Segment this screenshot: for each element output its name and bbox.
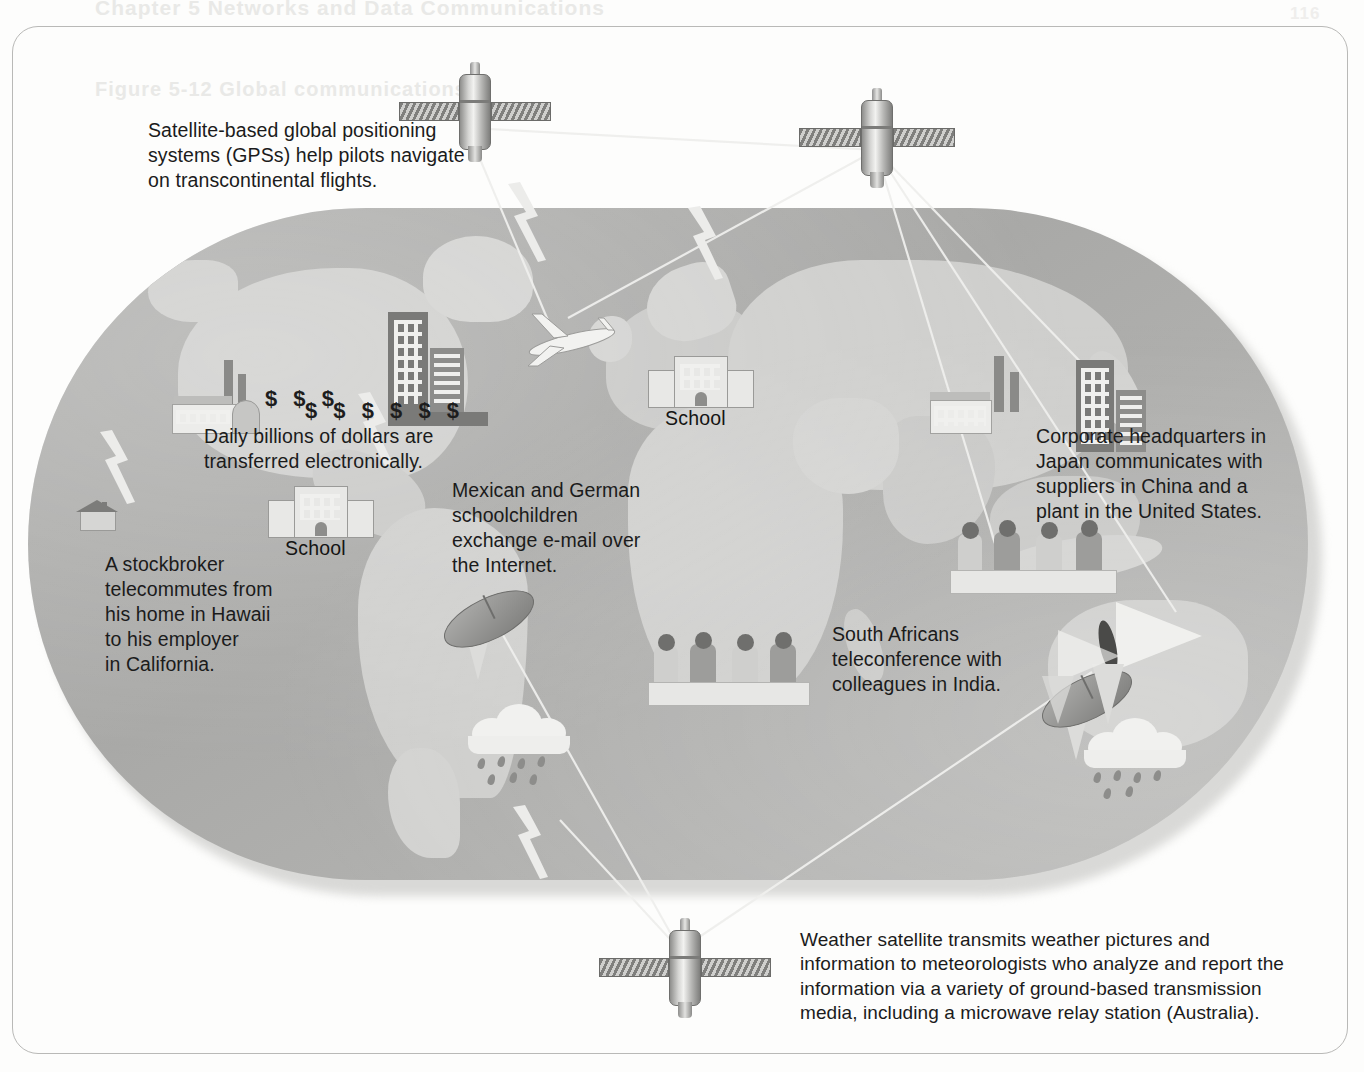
participant-head [658,634,675,651]
conference-table [648,682,810,706]
rain-drop [476,757,486,770]
airplane-icon [510,308,630,380]
rain-drop [1112,769,1122,782]
stockbroker-callout: A stockbroker telecommutes from his home… [105,552,315,677]
meeting-group-icon [648,624,808,706]
rain-drop [496,755,506,768]
school-windows [300,494,340,520]
cloud-base [1084,750,1186,768]
satellite-band [862,126,892,129]
participant-head [999,520,1016,537]
smokestack [1010,372,1019,412]
solar-panel-left [599,958,669,977]
school-wing-left [648,370,676,408]
rain-drop [508,771,518,784]
conference-table [950,570,1117,594]
rain-drop [536,755,546,768]
school-building-icon [648,352,752,408]
weather-satellite-callout: Weather satellite transmits weather pict… [800,928,1320,1025]
factory-windows [176,410,230,424]
school-windows [680,364,720,390]
school-building-icon [268,482,372,538]
rain-drop [1102,787,1112,800]
house-icon [76,500,118,530]
satellite-thruster [870,172,884,188]
teleconference-callout: South Africans teleconference with colle… [832,622,1052,697]
gps-callout: Satellite-based global positioning syste… [148,118,478,193]
participant-head [775,632,792,649]
solar-panel-left [799,128,861,147]
participant-head [1041,522,1058,539]
rain-drop [1152,769,1162,782]
ghost-text-line-a: Chapter 5 Networks and Data Communicatio… [95,0,605,20]
participant-head [962,522,979,539]
rain-cloud-icon [1078,714,1194,800]
solar-panel-right [701,958,771,977]
factory-windows [934,406,986,426]
satellite-comms-icon [802,88,952,180]
rain-cloud-icon [462,700,578,786]
satellite-thruster [678,1002,692,1018]
rain-drop [516,757,526,770]
smokestack [994,356,1004,412]
satellite-body [669,930,701,1006]
satellite-body [861,100,893,176]
rain-drop [486,773,496,786]
satellite-band [460,100,490,103]
ghost-text-corner: 116 [1290,4,1320,24]
satellite-weather-icon [610,918,760,1010]
dollar-symbols-lower: $ $ $ $ $ $ [305,398,464,424]
participant-head [737,634,754,651]
solar-panel-right [893,128,955,147]
landmass-middle-east [793,398,899,494]
meeting-group-icon [950,512,1115,594]
landmass-alaska [148,260,238,322]
rain-drop [528,773,538,786]
school-label-europe: School [665,407,726,430]
satellite-dish-icon [440,592,550,688]
landmass-south-america-tip [388,748,460,858]
rain-drop [1092,771,1102,784]
electronic-funds-callout: Daily billions of dollars are transferre… [204,424,504,474]
relay-beam [1058,630,1120,682]
participant-head [695,632,712,649]
cloud-base [468,736,570,754]
factory-icon [930,378,1038,436]
sawtooth-roof [174,396,232,404]
school-wing-right [346,500,374,538]
rain-drop [1124,785,1134,798]
solar-panel-right [491,102,551,121]
rain-drop [1132,771,1142,784]
schoolchildren-email-callout: Mexican and German schoolchildren exchan… [452,478,682,578]
corporate-hq-callout: Corporate headquarters in Japan communic… [1036,424,1298,524]
school-wing-right [726,370,754,408]
school-wing-left [268,500,296,538]
tower-windows [394,320,422,404]
landmass-scandinavia [637,254,744,352]
satellite-band [670,956,700,959]
